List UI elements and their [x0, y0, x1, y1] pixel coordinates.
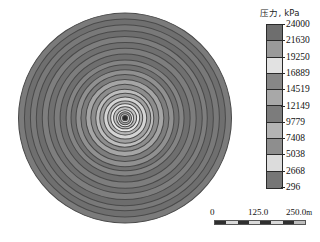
legend-swatch[interactable]: [267, 155, 282, 171]
scale-bar-segment: [215, 221, 226, 224]
legend-tick: [281, 187, 285, 188]
scale-bar-segment: [283, 221, 294, 224]
legend-tick-label: 2668: [286, 166, 305, 176]
scale-bar-labels: 0125.0250.0m: [210, 207, 314, 219]
scale-bar-track: [214, 220, 306, 225]
legend-tick-label: 9779: [286, 117, 305, 127]
legend-tick: [281, 106, 285, 107]
legend-swatch[interactable]: [267, 172, 282, 188]
legend-tick-label: 24000: [286, 19, 310, 29]
legend-tick: [281, 24, 285, 25]
legend-labels: 2400021630192501688914519121499779740850…: [285, 19, 320, 192]
contour-plot[interactable]: [16, 11, 234, 225]
legend-tick-label: 19250: [286, 52, 310, 62]
scale-bar-tick-label: 250.0m: [286, 207, 312, 218]
legend-tick: [281, 171, 285, 172]
scale-bar-segment: [238, 221, 249, 224]
scale-bar-segment: [271, 221, 282, 224]
legend-tick-label: 5038: [286, 149, 305, 159]
scale-bar-unit: m: [306, 208, 312, 217]
legend-tick: [281, 73, 285, 74]
scale-bar-tick-label: 125.0: [248, 207, 268, 218]
legend-swatch[interactable]: [267, 123, 282, 139]
legend-swatch[interactable]: [267, 41, 282, 57]
legend-swatch[interactable]: [267, 58, 282, 74]
legend-tick-label: 14519: [286, 84, 310, 94]
legend-swatch[interactable]: [267, 106, 282, 122]
legend-tick-label: 12149: [286, 101, 310, 111]
legend: 压力, kPa 24000216301925016889145191214997…: [258, 6, 320, 196]
legend-tick-label: 7408: [286, 133, 305, 143]
legend-tick: [281, 89, 285, 90]
legend-tick: [281, 40, 285, 41]
scale-bar-segment: [249, 221, 260, 224]
contour-ring: [122, 115, 128, 121]
scale-bar: 0125.0250.0m: [210, 207, 314, 235]
legend-tick: [281, 154, 285, 155]
legend-tick: [281, 138, 285, 139]
legend-tick-label: 21630: [286, 35, 310, 45]
legend-tick: [281, 57, 285, 58]
legend-title: 压力, kPa: [260, 6, 320, 18]
legend-tick: [281, 122, 285, 123]
legend-colorbar[interactable]: [266, 24, 283, 189]
legend-swatch[interactable]: [267, 90, 282, 106]
legend-swatch[interactable]: [267, 139, 282, 155]
legend-swatch[interactable]: [267, 74, 282, 90]
legend-tick-label: 16889: [286, 68, 310, 78]
legend-tick-label: 296: [286, 182, 300, 192]
scale-bar-tick-label: 0: [210, 207, 215, 218]
scale-bar-segment: [260, 221, 271, 224]
scale-bar-segment: [226, 221, 237, 224]
legend-swatch[interactable]: [267, 25, 282, 41]
plot-area: [0, 0, 250, 242]
scale-bar-segment: [294, 221, 305, 224]
